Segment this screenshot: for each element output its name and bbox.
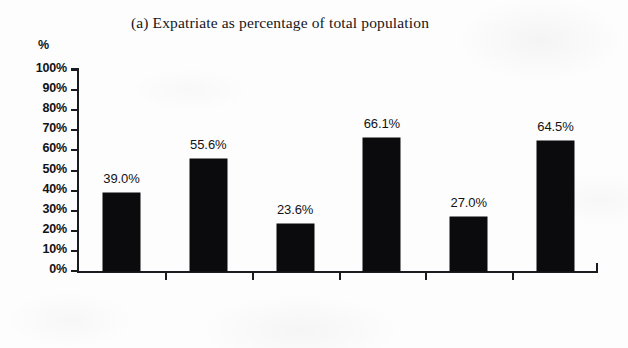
y-axis-tick-label: 20% [43,222,67,236]
y-axis-tick: 90% [71,89,77,91]
y-axis-tick: 70% [71,129,77,131]
y-axis-line [77,68,79,273]
y-axis-tick-label: 10% [43,242,67,256]
bar-value-label: 39.0% [92,171,152,186]
chart-figure: (a) Expatriate as percentage of total po… [0,0,628,348]
bar [277,224,314,271]
bar-value-label: 23.6% [265,202,325,217]
y-axis-tick: 10% [71,250,77,252]
y-axis-tick: 20% [71,230,77,232]
bar [190,159,227,271]
y-axis-tick: 100% [71,69,77,71]
x-axis-tick [165,271,167,280]
x-axis-tick [512,271,514,280]
chart-title: (a) Expatriate as percentage of total po… [60,14,500,32]
y-axis-tick: 30% [71,210,77,212]
bar [103,193,140,271]
x-axis-tick [252,271,254,280]
y-axis-tick-label: 100% [36,61,67,75]
y-axis-tick-label: 0% [49,262,67,276]
x-axis-tick [425,271,427,280]
bar-value-label: 66.1% [352,116,412,131]
y-axis-tick: 0% [71,270,77,272]
bar [363,138,400,271]
y-axis-tick-label: 30% [43,202,67,216]
bar [450,217,487,271]
x-axis-tick [339,271,341,280]
y-axis-unit-label: % [38,38,49,52]
bar [537,141,574,271]
y-axis-tick-label: 80% [43,101,67,115]
y-axis-tick-label: 90% [43,81,67,95]
y-axis-tick: 40% [71,190,77,192]
y-axis-tick-label: 60% [43,141,67,155]
bar-value-label: 27.0% [439,195,499,210]
y-axis-tick-label: 50% [43,162,67,176]
x-axis-end-cap [596,263,598,273]
y-axis-tick-label: 40% [43,182,67,196]
y-axis-tick: 50% [71,170,77,172]
plot-area: 100%90%80%70%60%50%40%30%20%10%0% 39.0%5… [77,70,598,271]
y-axis-tick: 60% [71,149,77,151]
x-axis-line [77,271,598,273]
y-axis-tick: 80% [71,109,77,111]
bar-value-label: 64.5% [526,119,586,134]
bar-value-label: 55.6% [178,137,238,152]
y-axis-tick-label: 70% [43,121,67,135]
